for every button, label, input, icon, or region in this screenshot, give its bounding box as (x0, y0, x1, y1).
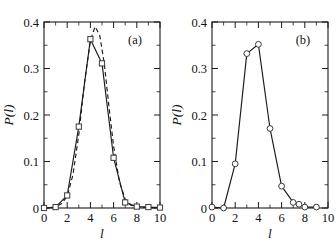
y-tick-label: 0.2 (23, 109, 39, 123)
data-point-circle-marker (302, 204, 308, 210)
data-point-circle-marker (256, 41, 262, 47)
data-point-circle-marker (232, 161, 238, 167)
panel-b-x-tick-labels: 0246810 (209, 211, 334, 225)
y-tick-label: 0.3 (191, 62, 207, 76)
x-tick-label: 2 (232, 211, 238, 225)
data-point-square-marker (65, 193, 70, 198)
panel-a-svg: 0246810 00.10.20.30.4 l P(l) (a) (0, 0, 168, 242)
data-point-square-marker (53, 204, 58, 209)
data-polyline (212, 44, 316, 208)
panel-a-fit-curve (51, 27, 160, 208)
panel-b-axes (212, 22, 328, 208)
data-point-circle-marker (267, 126, 273, 132)
panel-a-x-axis-label: l (100, 226, 104, 241)
y-tick-label: 0.3 (23, 62, 39, 76)
x-tick-label: 4 (255, 211, 262, 225)
data-point-circle-marker (314, 204, 320, 210)
data-point-square-marker (99, 61, 104, 66)
figure-root: 0246810 00.10.20.30.4 l P(l) (a) 0246810… (0, 0, 336, 242)
x-tick-label: 8 (134, 211, 140, 225)
panel-b-y-tick-labels: 00.10.20.30.4 (191, 16, 207, 216)
panel-a-data-markers (41, 37, 162, 211)
x-tick-label: 2 (64, 211, 70, 225)
y-tick-label: 0.1 (191, 155, 207, 169)
data-point-circle-marker (296, 201, 302, 207)
chart-panel-a: 0246810 00.10.20.30.4 l P(l) (a) (0, 0, 168, 242)
panel-b-svg: 0246810 00.10.20.30.4 l P(l) (b) (168, 0, 336, 242)
x-tick-label: 10 (322, 211, 335, 225)
x-tick-label: 6 (278, 211, 284, 225)
y-tick-label: 0.2 (191, 109, 207, 123)
panel-b-data-curve (212, 44, 316, 208)
data-point-circle-marker (290, 200, 296, 206)
y-tick-label: 0.1 (23, 155, 39, 169)
y-tick-label: 0 (33, 202, 39, 216)
data-point-square-marker (111, 155, 116, 160)
y-tick-label: 0 (201, 202, 207, 216)
panel-a-y-axis-label: P(l) (1, 104, 16, 126)
panel-b-x-axis-label: l (268, 226, 272, 241)
data-point-square-marker (88, 37, 93, 42)
fit-polyline (51, 27, 160, 208)
data-point-circle-marker (244, 51, 250, 57)
x-tick-label: 4 (87, 211, 94, 225)
panel-a-tag: (a) (128, 33, 142, 47)
x-tick-label: 10 (154, 211, 167, 225)
data-point-square-marker (157, 205, 162, 210)
chart-panel-b: 0246810 00.10.20.30.4 l P(l) (b) (168, 0, 336, 242)
x-tick-label: 8 (302, 211, 308, 225)
x-tick-label: 0 (41, 211, 47, 225)
data-point-circle-marker (221, 205, 227, 211)
panel-a-y-tick-labels: 00.10.20.30.4 (23, 16, 39, 216)
y-tick-label: 0.4 (23, 16, 39, 30)
data-point-square-marker (41, 205, 46, 210)
x-tick-label: 0 (209, 211, 215, 225)
data-point-square-marker (134, 204, 139, 209)
data-point-circle-marker (209, 204, 215, 210)
panel-b-data-markers (209, 41, 319, 210)
data-point-square-marker (146, 204, 151, 209)
panel-b-tag: (b) (296, 33, 311, 47)
panel-a-x-tick-labels: 0246810 (41, 211, 166, 225)
x-tick-label: 6 (110, 211, 116, 225)
panel-b-y-axis-label: P(l) (169, 104, 184, 126)
data-point-square-marker (123, 200, 128, 205)
data-point-circle-marker (279, 183, 285, 189)
data-point-square-marker (76, 124, 81, 129)
y-tick-label: 0.4 (191, 16, 207, 30)
